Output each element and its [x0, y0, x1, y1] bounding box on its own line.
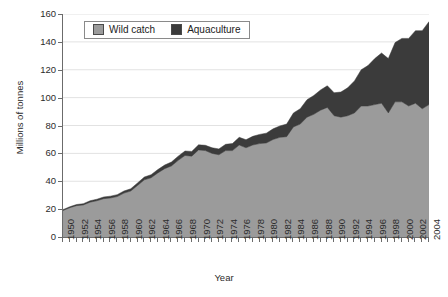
- x-tick-mark: [245, 238, 246, 242]
- legend-entry: Wild catch: [93, 24, 155, 35]
- x-tick-mark: [238, 238, 239, 242]
- legend-swatch-icon: [171, 24, 182, 35]
- x-tick-mark: [252, 238, 253, 242]
- x-tick-mark: [387, 238, 388, 242]
- x-tick-label: 1986: [310, 219, 320, 240]
- fish-production-chart: 020406080100120140160 Millions of tonnes…: [0, 0, 448, 297]
- y-tick-label: 160: [16, 9, 56, 19]
- x-tick-mark: [408, 238, 409, 242]
- x-tick-label: 1994: [364, 219, 374, 240]
- x-tick-mark: [272, 238, 273, 242]
- x-tick-mark: [286, 238, 287, 242]
- x-tick-mark: [218, 238, 219, 242]
- x-tick-mark: [96, 238, 97, 242]
- x-tick-mark: [340, 238, 341, 242]
- x-tick-mark: [414, 238, 415, 242]
- x-tick-label: 1982: [283, 219, 293, 240]
- x-tick-label: 1998: [391, 219, 401, 240]
- x-tick-mark: [231, 238, 232, 242]
- x-tick-mark: [381, 238, 382, 242]
- x-tick-label: 1950: [66, 219, 76, 240]
- x-tick-mark: [82, 238, 83, 242]
- x-tick-mark: [62, 238, 63, 242]
- x-tick-mark: [211, 238, 212, 242]
- x-tick-mark: [333, 238, 334, 242]
- x-tick-label: 1978: [256, 219, 266, 240]
- x-tick-mark: [164, 238, 165, 242]
- x-tick-mark: [123, 238, 124, 242]
- x-tick-label: 1984: [296, 219, 306, 240]
- x-tick-mark: [157, 238, 158, 242]
- x-tick-label: 1972: [215, 219, 225, 240]
- x-tick-mark: [89, 238, 90, 242]
- x-tick-mark: [401, 238, 402, 242]
- x-tick-mark: [109, 238, 110, 242]
- x-tick-label: 1988: [324, 219, 334, 240]
- x-tick-mark: [360, 238, 361, 242]
- x-tick-label: 1960: [134, 219, 144, 240]
- x-tick-mark: [299, 238, 300, 242]
- x-tick-label: 1964: [161, 219, 171, 240]
- x-tick-mark: [421, 238, 422, 242]
- x-tick-mark: [394, 238, 395, 242]
- x-tick-label: 1974: [229, 219, 239, 240]
- y-tick-label: 0: [16, 232, 56, 242]
- x-tick-mark: [191, 238, 192, 242]
- x-tick-mark: [204, 238, 205, 242]
- x-tick-mark: [259, 238, 260, 242]
- x-tick-mark: [320, 238, 321, 242]
- area-series-wild-catch: [63, 102, 429, 237]
- x-tick-mark: [265, 238, 266, 242]
- x-tick-label: 1968: [188, 219, 198, 240]
- x-tick-label: 2002: [418, 219, 428, 240]
- x-tick-label: 1980: [269, 219, 279, 240]
- x-tick-label: 1966: [174, 219, 184, 240]
- x-tick-label: 1990: [337, 219, 347, 240]
- x-tick-mark: [170, 238, 171, 242]
- x-tick-label: 1954: [93, 219, 103, 240]
- x-tick-mark: [428, 238, 429, 242]
- x-tick-label: 1976: [242, 219, 252, 240]
- y-axis-title: Millions of tonnes: [14, 53, 25, 183]
- x-tick-label: 1996: [378, 219, 388, 240]
- x-tick-label: 1962: [147, 219, 157, 240]
- x-tick-mark: [76, 238, 77, 242]
- x-tick-mark: [225, 238, 226, 242]
- x-tick-mark: [367, 238, 368, 242]
- x-tick-label: 2000: [405, 219, 415, 240]
- stacked-area-svg: [63, 14, 429, 237]
- legend-label: Aquaculture: [187, 25, 240, 35]
- x-tick-label: 1956: [107, 219, 117, 240]
- x-tick-mark: [347, 238, 348, 242]
- y-tick-label: 20: [16, 204, 56, 214]
- x-tick-label: 1992: [351, 219, 361, 240]
- x-axis-title: Year: [0, 272, 448, 283]
- x-tick-mark: [177, 238, 178, 242]
- x-tick-label: 2004: [432, 219, 442, 240]
- x-tick-mark: [374, 238, 375, 242]
- x-tick-label: 1970: [202, 219, 212, 240]
- x-tick-mark: [137, 238, 138, 242]
- legend-swatch-icon: [93, 24, 104, 35]
- x-tick-mark: [143, 238, 144, 242]
- x-tick-label: 1952: [80, 219, 90, 240]
- plot-area: [62, 14, 429, 238]
- x-tick-mark: [279, 238, 280, 242]
- x-tick-mark: [184, 238, 185, 242]
- x-tick-mark: [103, 238, 104, 242]
- x-tick-mark: [306, 238, 307, 242]
- x-tick-mark: [326, 238, 327, 242]
- x-tick-mark: [116, 238, 117, 242]
- x-tick-mark: [353, 238, 354, 242]
- x-tick-mark: [69, 238, 70, 242]
- chart-legend: Wild catchAquaculture: [84, 21, 250, 39]
- legend-label: Wild catch: [109, 25, 155, 35]
- x-tick-mark: [198, 238, 199, 242]
- x-tick-mark: [292, 238, 293, 242]
- x-tick-mark: [130, 238, 131, 242]
- legend-entry: Aquaculture: [171, 24, 240, 35]
- y-tick-label: 140: [16, 37, 56, 47]
- x-tick-mark: [313, 238, 314, 242]
- x-tick-mark: [150, 238, 151, 242]
- x-tick-label: 1958: [120, 219, 130, 240]
